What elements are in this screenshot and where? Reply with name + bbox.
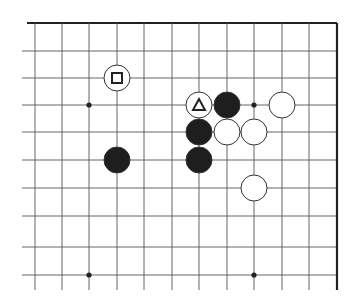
white-stone [186, 92, 212, 118]
white-stone-body [241, 175, 267, 201]
stones-layer [104, 65, 295, 201]
go-board [0, 0, 359, 306]
white-stone-body [104, 65, 130, 91]
white-stone-body [214, 119, 240, 145]
black-stone [214, 92, 240, 118]
white-stone [104, 65, 130, 91]
white-stone-body [269, 92, 295, 118]
black-stone-body [186, 147, 212, 173]
black-stone-body [214, 92, 240, 118]
star-point [251, 102, 256, 107]
white-stone-body [241, 119, 267, 145]
star-point [86, 102, 91, 107]
black-stone [104, 147, 130, 173]
star-point [251, 272, 256, 277]
white-stone-body [186, 92, 212, 118]
white-stone [241, 175, 267, 201]
black-stone-body [104, 147, 130, 173]
black-stone [186, 119, 212, 145]
star-point [86, 272, 91, 277]
black-stone [186, 147, 212, 173]
white-stone [214, 119, 240, 145]
white-stone [269, 92, 295, 118]
white-stone [241, 119, 267, 145]
black-stone-body [186, 119, 212, 145]
board-grid [22, 23, 337, 290]
